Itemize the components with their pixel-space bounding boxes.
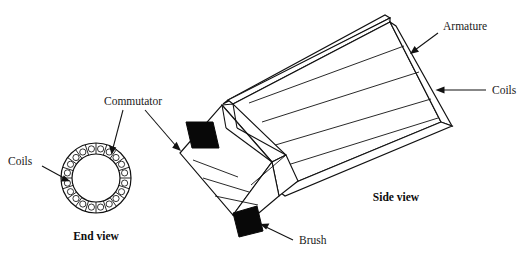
label-commutator: Commutator: [104, 95, 162, 107]
brush-top-block: [186, 122, 219, 148]
coil-circle: [98, 146, 104, 152]
diagram-page: Commutator Armature Coils Coils Brush En…: [0, 0, 529, 254]
coil-circle: [80, 149, 86, 155]
coil-circle: [73, 154, 79, 160]
coil-circle: [64, 170, 70, 176]
coils-right-leader: [436, 87, 487, 94]
coil-circle: [113, 154, 119, 160]
label-brush: Brush: [299, 234, 327, 246]
coil-circle: [73, 195, 79, 201]
label-coils-left: Coils: [8, 155, 33, 167]
arrowhead-icon: [436, 87, 445, 94]
arrowhead-icon: [410, 46, 419, 54]
label-side-view: Side view: [373, 191, 420, 203]
leader-line: [415, 33, 438, 50]
leader-line: [42, 166, 64, 178]
coil-circle: [106, 201, 112, 207]
ring-inner-circle: [72, 154, 120, 202]
coil-circle: [113, 195, 119, 201]
armature-leader: [410, 33, 438, 54]
coil-circle: [122, 180, 128, 186]
label-armature: Armature: [443, 20, 487, 32]
brush-leader: [260, 223, 293, 240]
commutator-leader-right: [145, 110, 181, 151]
coil-circle: [80, 201, 86, 207]
label-coils-right: Coils: [492, 84, 517, 96]
end-view-ring: [61, 143, 131, 213]
leader-line: [145, 110, 176, 146]
coil-circle: [98, 204, 104, 210]
coil-circle: [118, 161, 124, 167]
coil-circle: [67, 189, 73, 195]
coil-circle: [67, 161, 73, 167]
coil-circle: [122, 170, 128, 176]
leader-line: [266, 227, 293, 240]
leader-line: [113, 110, 123, 148]
coil-circle: [88, 146, 94, 152]
coil-circle: [88, 204, 94, 210]
machine-diagram: Commutator Armature Coils Coils Brush En…: [0, 0, 529, 254]
coil-circle: [118, 189, 124, 195]
label-end-view: End view: [73, 230, 119, 242]
commutator-leader-left: [109, 110, 123, 155]
